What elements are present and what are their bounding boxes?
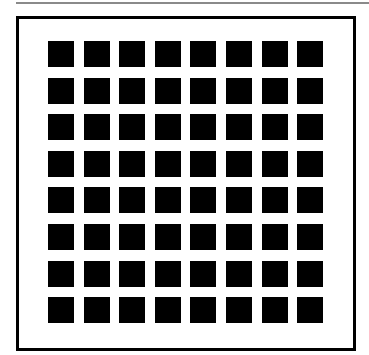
grid-square: [48, 78, 74, 104]
grid-square: [119, 297, 145, 323]
grid-square: [226, 151, 252, 177]
grid-square: [297, 261, 323, 287]
grid-square: [84, 261, 110, 287]
grid-square: [119, 114, 145, 140]
grid-square: [190, 114, 216, 140]
grid-square: [48, 151, 74, 177]
grid-square: [84, 41, 110, 67]
grid-square: [297, 114, 323, 140]
grid-square: [297, 297, 323, 323]
grid-square: [119, 261, 145, 287]
grid-square: [48, 224, 74, 250]
grid-square: [262, 78, 288, 104]
grid-square: [119, 41, 145, 67]
grid-square: [155, 41, 181, 67]
grid-square: [48, 297, 74, 323]
grid-square: [155, 151, 181, 177]
grid-square: [48, 261, 74, 287]
grid-square: [155, 187, 181, 213]
grid-square: [262, 151, 288, 177]
grid-square: [155, 261, 181, 287]
grid-square: [190, 261, 216, 287]
grid-square: [297, 187, 323, 213]
grid-square: [119, 78, 145, 104]
grid-square: [84, 224, 110, 250]
grid-square: [190, 151, 216, 177]
grid-square: [48, 41, 74, 67]
grid-square: [226, 78, 252, 104]
grid-square: [190, 224, 216, 250]
grid-square: [84, 187, 110, 213]
grid-square: [190, 187, 216, 213]
grid-square: [84, 78, 110, 104]
grid-square: [155, 224, 181, 250]
grid-square: [190, 41, 216, 67]
grid-square: [226, 114, 252, 140]
grid-square: [155, 78, 181, 104]
grid-square: [297, 224, 323, 250]
grid-square: [297, 41, 323, 67]
grid-square: [119, 187, 145, 213]
grid-square: [262, 261, 288, 287]
grid-square: [262, 297, 288, 323]
grid-square: [226, 224, 252, 250]
grid-square: [297, 78, 323, 104]
grid-square: [262, 187, 288, 213]
grid-square: [84, 297, 110, 323]
grid-square: [262, 114, 288, 140]
grid-square: [84, 114, 110, 140]
grid-square: [226, 297, 252, 323]
grid-square: [48, 114, 74, 140]
top-rule-divider: [16, 2, 369, 4]
grid-square: [226, 41, 252, 67]
grid-square: [119, 224, 145, 250]
grid-square: [262, 224, 288, 250]
grid-square: [297, 151, 323, 177]
grid-square: [155, 297, 181, 323]
grid-square: [119, 151, 145, 177]
grid-square: [190, 297, 216, 323]
grid-square: [226, 261, 252, 287]
grid-square: [84, 151, 110, 177]
grid-square: [155, 114, 181, 140]
grid-square: [226, 187, 252, 213]
grid-square: [190, 78, 216, 104]
grid-square: [262, 41, 288, 67]
grid-square: [48, 187, 74, 213]
